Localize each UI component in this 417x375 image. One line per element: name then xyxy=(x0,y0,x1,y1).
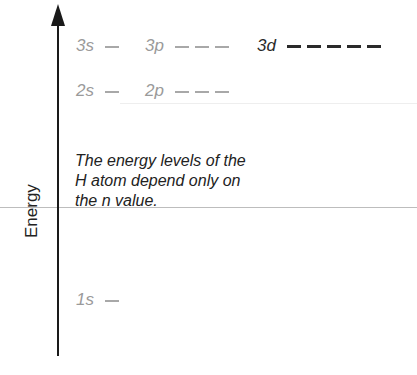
level-label: 3s xyxy=(76,36,94,55)
level-2s: 2s xyxy=(76,81,125,101)
note-line: the n value. xyxy=(75,191,246,211)
note-line: The energy levels of the xyxy=(75,151,246,171)
caption-note: The energy levels of the H atom depend o… xyxy=(75,151,246,211)
level-label: 2p xyxy=(145,81,164,100)
level-1s: 1s xyxy=(76,290,125,310)
note-line: H atom depend only on xyxy=(75,171,246,191)
level-label: 3p xyxy=(145,36,164,55)
scan-artifact-line xyxy=(120,103,417,104)
axis-label: Energy xyxy=(22,184,42,238)
level-label: 3d xyxy=(257,36,276,55)
level-2p: 2p xyxy=(145,81,235,101)
level-3p: 3p xyxy=(145,36,235,56)
energy-axis xyxy=(57,14,59,356)
level-3s: 3s xyxy=(76,36,125,56)
level-3d: 3d xyxy=(257,36,387,56)
level-label: 2s xyxy=(76,81,94,100)
level-label: 1s xyxy=(76,290,94,309)
